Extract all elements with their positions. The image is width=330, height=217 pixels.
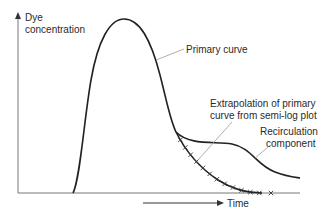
y-axis-arrow-icon — [15, 12, 21, 19]
extrapolation-curve — [176, 132, 262, 193]
y-axis-label-line1: Dye — [25, 12, 43, 23]
extrapolation-leader — [198, 122, 232, 160]
dye-dilution-diagram: Dye concentration Time Primary curve Ext… — [0, 0, 330, 217]
recirculation-label-line2: component — [266, 138, 316, 149]
extrapolation-label-line1: Extrapolation of primary — [210, 98, 316, 109]
extrapolation-label-line2: curve from semi-log plot — [210, 110, 317, 121]
x-axis-label: Time — [227, 198, 249, 209]
primary-curve-leader — [156, 49, 184, 60]
extrapolation-markers — [178, 138, 273, 195]
time-arrow-icon — [217, 200, 224, 206]
primary-curve — [73, 19, 176, 193]
primary-curve-label: Primary curve — [186, 44, 248, 55]
y-axis-label-line2: concentration — [25, 24, 85, 35]
recirculation-label-line1: Recirculation — [260, 126, 318, 137]
